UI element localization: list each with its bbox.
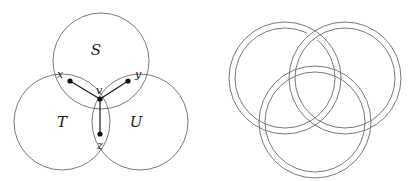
ring-upper-right-outer xyxy=(289,22,401,134)
figure-root: S T U x y v z xyxy=(0,0,410,181)
vertex-label-z: z xyxy=(96,139,103,152)
borromean-rings-panel xyxy=(205,0,410,181)
borromean-rings-svg xyxy=(205,0,410,181)
node-x xyxy=(67,78,72,83)
set-label-S: S xyxy=(91,41,101,59)
venn-diagram-panel: S T U x y v z xyxy=(0,0,205,181)
set-label-U: U xyxy=(130,113,144,131)
node-z xyxy=(97,131,102,136)
ring-lower-outer xyxy=(259,66,371,178)
vertex-label-x: x xyxy=(57,68,64,81)
ring-lower xyxy=(259,66,371,178)
set-label-T: T xyxy=(57,113,68,131)
ring-upper-right xyxy=(289,22,401,134)
vertex-label-y: y xyxy=(134,68,142,81)
ring-upper-left-outer xyxy=(229,22,341,134)
vertex-label-v: v xyxy=(96,84,103,97)
ring-upper-left-inner xyxy=(235,28,335,128)
node-v xyxy=(97,96,102,101)
ring-upper-left xyxy=(229,22,341,134)
node-y xyxy=(125,78,130,83)
venn-diagram-svg: S T U x y v z xyxy=(0,0,205,181)
ring-lower-inner xyxy=(265,72,365,172)
ring-upper-right-inner xyxy=(295,28,395,128)
